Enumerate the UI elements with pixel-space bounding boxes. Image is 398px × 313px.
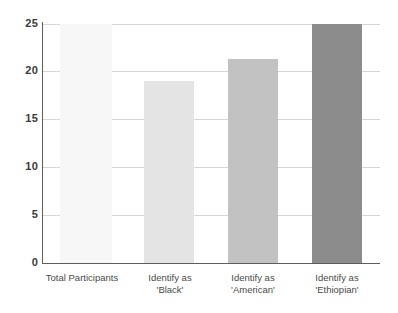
ytick-label-20: 20: [6, 64, 38, 76]
ytick-label-15: 15: [6, 112, 38, 124]
bar-total-participants: [60, 24, 112, 263]
bar-chart: 25 20 15 10 5 0 Total Participants Ident…: [0, 0, 398, 313]
xtick-line2-3: 'Ethiopian': [279, 284, 395, 296]
x-axis-line: [42, 263, 380, 264]
ytick-label-0: 0: [6, 256, 38, 268]
xtick-line1-3: Identify as: [315, 272, 358, 283]
xtick-label-identify-as-ethiopian: Identify as 'Ethiopian': [279, 272, 395, 296]
bar-identify-as-american: [228, 59, 278, 263]
bars-layer: [42, 24, 380, 263]
ytick-label-25: 25: [6, 17, 38, 29]
xtick-line1-1: Identify as: [148, 272, 191, 283]
xtick-line1-2: Identify as: [231, 272, 274, 283]
bar-identify-as-ethiopian: [312, 24, 362, 263]
ytick-label-10: 10: [6, 160, 38, 172]
ytick-label-5: 5: [6, 208, 38, 220]
bar-identify-as-black: [144, 81, 194, 263]
xtick-line1-0: Total Participants: [46, 272, 118, 283]
y-axis-line: [42, 22, 43, 264]
